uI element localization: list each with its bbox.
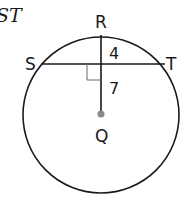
length-upper: 4: [109, 44, 119, 63]
label-r: R: [95, 12, 107, 32]
length-lower: 7: [109, 79, 119, 98]
center-point-q: [98, 111, 105, 118]
label-t: T: [165, 54, 177, 74]
label-s: S: [25, 54, 36, 74]
right-angle-marker: [87, 64, 101, 80]
circle-diagram: R S T Q 4 7: [0, 0, 186, 202]
label-q: Q: [95, 126, 108, 146]
